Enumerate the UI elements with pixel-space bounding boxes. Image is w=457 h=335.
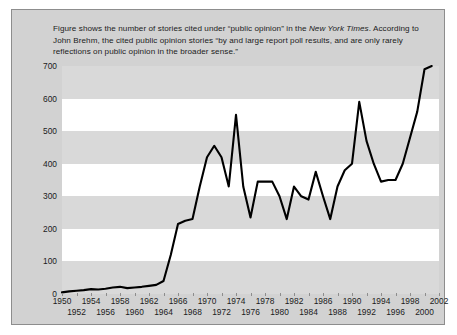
caption-line1-post: . xyxy=(369,24,371,33)
x-axis-tick-mark xyxy=(193,293,194,296)
x-axis-tick-label: 1994 xyxy=(372,296,391,306)
y-axis-tick-label: 700 xyxy=(43,61,57,71)
x-axis-tick-mark xyxy=(91,293,92,296)
x-axis-tick-label: 1980 xyxy=(270,307,289,317)
x-axis-tick-label: 1960 xyxy=(125,307,144,317)
x-axis-tick-label: 2002 xyxy=(430,296,449,306)
x-axis-tick-label: 1972 xyxy=(212,307,231,317)
y-axis-tick-label: 300 xyxy=(43,191,57,201)
x-axis-tick-mark xyxy=(178,293,179,296)
y-axis: 0100200300400500600700 xyxy=(23,66,57,294)
x-axis-tick-label: 1986 xyxy=(314,296,333,306)
x-axis-tick-label: 1966 xyxy=(169,296,188,306)
x-axis: 1950195419581962196619701974197819821986… xyxy=(62,296,439,326)
x-axis-tick-label: 1974 xyxy=(227,296,246,306)
x-axis-tick-mark xyxy=(149,293,150,296)
x-axis-tick-mark xyxy=(120,293,121,296)
caption-line1-pre: Figure shows the number of stories cited… xyxy=(53,24,309,33)
x-axis-tick-mark xyxy=(367,293,368,296)
x-axis-tick-mark xyxy=(381,293,382,296)
x-axis-tick-label: 1976 xyxy=(241,307,260,317)
x-axis-tick-mark xyxy=(439,293,440,296)
x-axis-tick-label: 2000 xyxy=(415,307,434,317)
x-axis-tick-label: 1988 xyxy=(328,307,347,317)
x-axis-tick-mark xyxy=(265,293,266,296)
x-axis-tick-label: 1954 xyxy=(82,296,101,306)
series-line xyxy=(62,66,439,294)
x-axis-tick-label: 1996 xyxy=(386,307,405,317)
y-axis-tick-label: 400 xyxy=(43,159,57,169)
figure-caption: Figure shows the number of stories cited… xyxy=(53,23,435,58)
x-axis-tick-label: 1984 xyxy=(299,307,318,317)
figure-frame: Figure shows the number of stories cited… xyxy=(11,9,445,325)
x-axis-tick-mark xyxy=(164,293,165,296)
x-axis-tick-mark xyxy=(323,293,324,296)
x-axis-tick-label: 1952 xyxy=(67,307,86,317)
y-axis-tick-label: 200 xyxy=(43,224,57,234)
x-axis-tick-mark xyxy=(251,293,252,296)
caption-line1-italic: New York Times xyxy=(309,24,369,33)
x-axis-tick-mark xyxy=(309,293,310,296)
x-axis-tick-label: 1956 xyxy=(96,307,115,317)
x-axis-tick-label: 1970 xyxy=(198,296,217,306)
x-axis-tick-mark xyxy=(207,293,208,296)
y-axis-tick-label: 600 xyxy=(43,94,57,104)
x-axis-tick-label: 1998 xyxy=(401,296,420,306)
x-axis-tick-mark xyxy=(338,293,339,296)
x-axis-tick-label: 1962 xyxy=(140,296,159,306)
x-axis-tick-mark xyxy=(62,293,63,296)
x-axis-tick-mark xyxy=(280,293,281,296)
x-axis-tick-mark xyxy=(294,293,295,296)
x-axis-tick-mark xyxy=(425,293,426,296)
x-axis-tick-label: 1992 xyxy=(357,307,376,317)
x-axis-tick-mark xyxy=(222,293,223,296)
x-axis-tick-label: 1950 xyxy=(53,296,72,306)
x-axis-tick-mark xyxy=(410,293,411,296)
x-axis-tick-mark xyxy=(77,293,78,296)
x-axis-tick-label: 1958 xyxy=(111,296,130,306)
x-axis-tick-mark xyxy=(396,293,397,296)
x-axis-tick-mark xyxy=(135,293,136,296)
x-axis-tick-label: 1982 xyxy=(285,296,304,306)
x-axis-tick-label: 1968 xyxy=(183,307,202,317)
x-axis-tick-label: 1990 xyxy=(343,296,362,306)
x-axis-tick-label: 1964 xyxy=(154,307,173,317)
x-axis-tick-label: 1978 xyxy=(256,296,275,306)
y-axis-tick-label: 500 xyxy=(43,126,57,136)
plot-area xyxy=(62,66,439,294)
x-axis-tick-mark xyxy=(236,293,237,296)
x-axis-tick-mark xyxy=(106,293,107,296)
y-axis-tick-label: 100 xyxy=(43,256,57,266)
x-axis-tick-mark xyxy=(352,293,353,296)
